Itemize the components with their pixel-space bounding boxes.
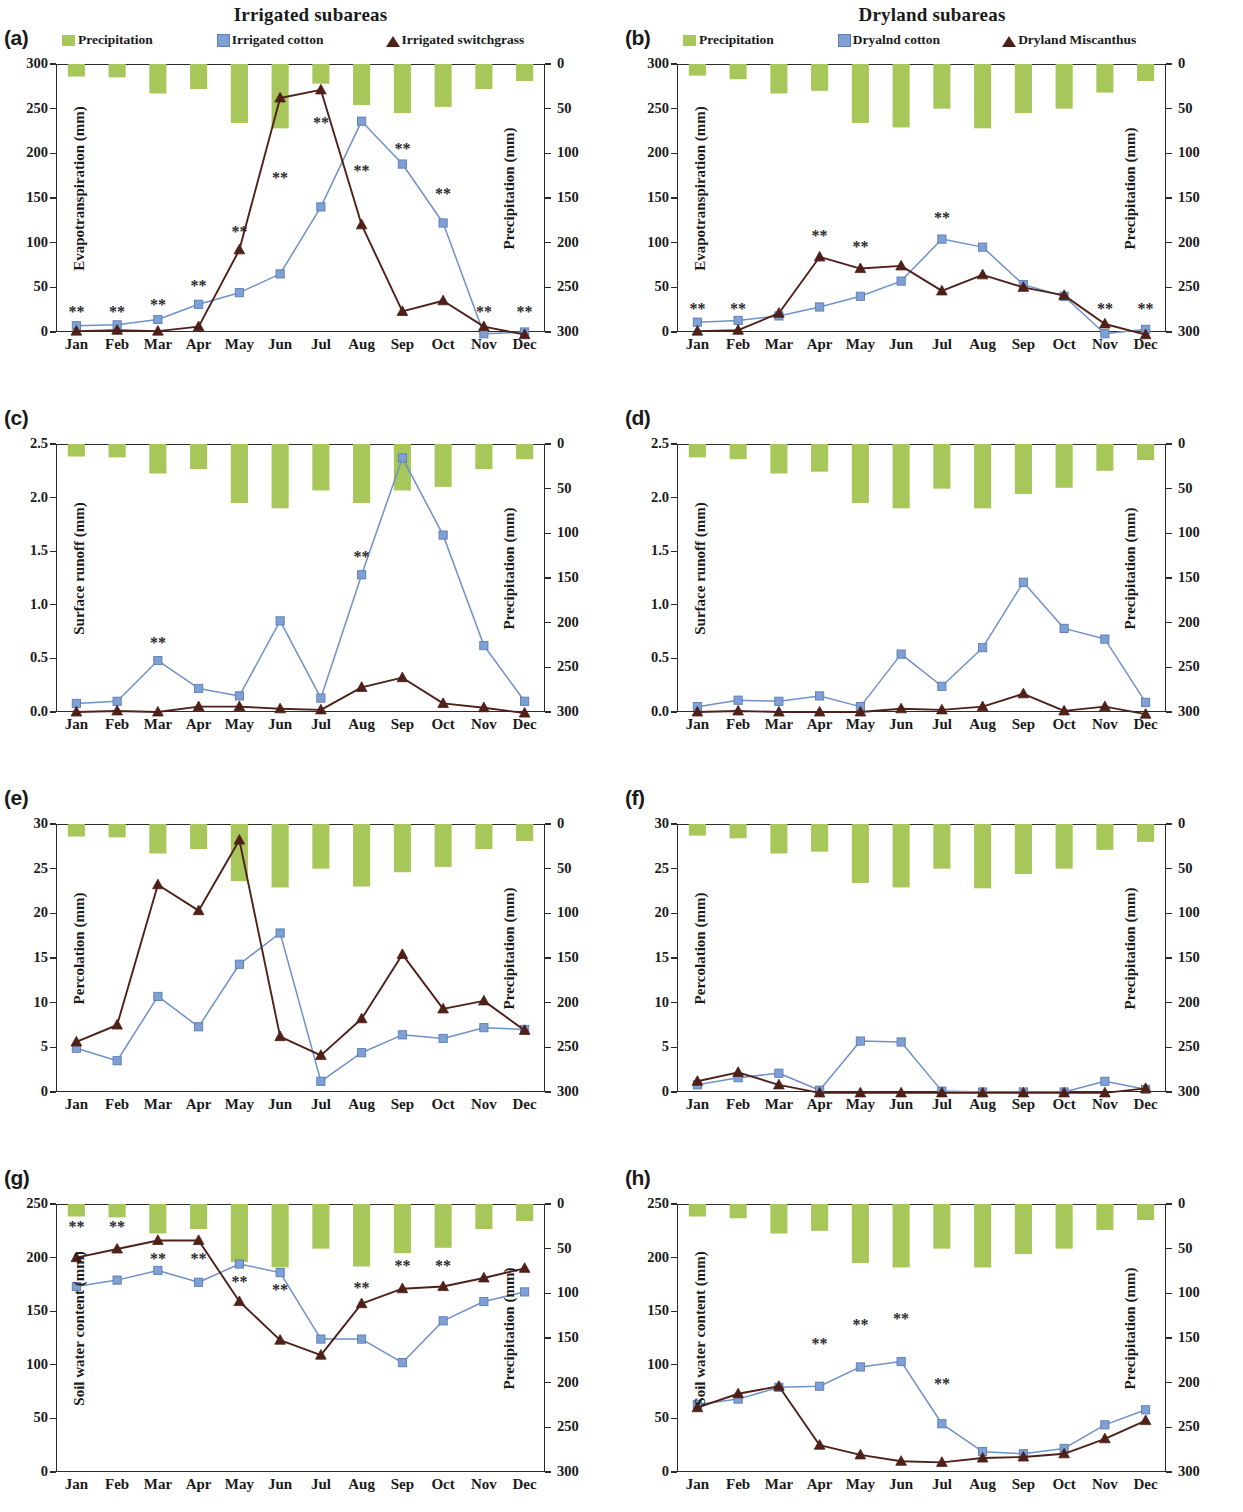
y-tick-label: 0 xyxy=(623,323,669,340)
y-tick-mark xyxy=(50,1002,56,1003)
x-tick-label: Jun xyxy=(878,1476,924,1493)
x-tick-label: Aug xyxy=(960,1476,1006,1493)
y2-tick-mark xyxy=(1166,1337,1172,1338)
y-tick-mark xyxy=(671,913,677,914)
legend-b: PrecipitationDryalnd cottonDryland Misca… xyxy=(677,30,1197,50)
x-axis-labels-f: JanFebMarAprMayJunJulAugSepOctNovDec xyxy=(677,1096,1166,1118)
y-tick-label: 50 xyxy=(2,1409,48,1426)
y2-tick-label: 100 xyxy=(1178,144,1224,161)
x-tick-label: Dec xyxy=(502,1096,548,1113)
y2-axis-title: Precipitation (mm) xyxy=(1122,454,1139,684)
x-tick-label: Nov xyxy=(1082,336,1128,353)
panel-e: (e)051015202530050100150200250300Percola… xyxy=(0,760,621,1138)
y2-tick-mark xyxy=(545,667,551,668)
series-perennial xyxy=(692,1067,1151,1097)
y-tick-mark xyxy=(671,823,677,824)
y-axis-title: Soil water content (mm) xyxy=(71,1214,88,1444)
x-tick-label: Oct xyxy=(1041,716,1087,733)
legend-item-square: Irrigated cotton xyxy=(217,32,324,48)
y-tick-mark xyxy=(50,868,56,869)
y2-tick-mark xyxy=(545,1293,551,1294)
y2-tick-label: 50 xyxy=(557,480,603,497)
y-axis-title: Evapotranspiration (mm) xyxy=(692,74,709,304)
legend-item-bar: Precipitation xyxy=(683,32,774,48)
y-tick-mark xyxy=(671,1091,677,1092)
x-axis-labels-a: JanFebMarAprMayJunJulAugSepOctNovDec xyxy=(56,336,545,358)
plot-canvas-e xyxy=(56,824,545,1092)
x-tick-label: Jan xyxy=(674,336,720,353)
y-tick-label: 100 xyxy=(2,1356,48,1373)
plot-canvas-g xyxy=(56,1204,545,1472)
y2-tick-label: 100 xyxy=(1178,904,1224,921)
x-tick-label: Sep xyxy=(379,1476,425,1493)
x-tick-label: Apr xyxy=(797,1096,843,1113)
legend-item-square: Dryalnd cotton xyxy=(838,32,940,48)
x-tick-label: Mar xyxy=(135,716,181,733)
x-tick-label: May xyxy=(216,716,262,733)
y2-tick-mark xyxy=(1166,63,1172,64)
y2-axis-title: Precipitation (mm) xyxy=(1122,834,1139,1064)
x-tick-label: Mar xyxy=(135,1476,181,1493)
y2-tick-mark xyxy=(1166,1471,1172,1472)
x-tick-label: Feb xyxy=(715,1096,761,1113)
y2-tick-label: 50 xyxy=(1178,100,1224,117)
y-tick-label: 1.0 xyxy=(2,596,48,613)
y-tick-mark xyxy=(50,1091,56,1092)
y-tick-mark xyxy=(50,1047,56,1048)
x-tick-label: Feb xyxy=(715,1476,761,1493)
x-tick-label: Mar xyxy=(756,1476,802,1493)
y-tick-mark xyxy=(50,1471,56,1472)
y-tick-label: 200 xyxy=(2,144,48,161)
y-axis-title: Soil water content (mm) xyxy=(692,1214,709,1444)
y2-tick-mark xyxy=(1166,1293,1172,1294)
x-tick-label: Jun xyxy=(878,336,924,353)
y2-tick-label: 150 xyxy=(557,189,603,206)
significance-marker: ** xyxy=(812,227,828,245)
y2-tick-mark xyxy=(545,1002,551,1003)
panel-c: (c)****0.00.51.01.52.02.5050100150200250… xyxy=(0,380,621,758)
y2-axis-title: Precipitation (mm) xyxy=(501,1214,518,1444)
plot-area-h: ********05010015020025005010015020025030… xyxy=(677,1204,1166,1472)
plot-canvas-f xyxy=(677,824,1166,1092)
significance-marker: ** xyxy=(1097,300,1113,318)
panel-g: (g)******************0501001502002500501… xyxy=(0,1140,621,1512)
y-tick-label: 100 xyxy=(2,234,48,251)
y-tick-label: 0 xyxy=(623,1463,669,1480)
x-tick-label: Jul xyxy=(919,716,965,733)
precipitation-bars xyxy=(68,64,533,128)
y2-tick-mark xyxy=(545,533,551,534)
series-cotton xyxy=(693,1357,1149,1457)
series-cotton xyxy=(693,1037,1149,1096)
panel-letter-h: (h) xyxy=(625,1166,650,1190)
x-tick-label: Feb xyxy=(94,1476,140,1493)
y-tick-label: 50 xyxy=(623,1409,669,1426)
significance-marker: ** xyxy=(354,548,370,566)
y2-tick-mark xyxy=(545,108,551,109)
significance-marker: ** xyxy=(313,114,329,132)
precipitation-bars xyxy=(68,1204,533,1267)
y-tick-mark xyxy=(671,497,677,498)
series-perennial xyxy=(71,84,530,338)
panel-letter-b: (b) xyxy=(625,26,650,50)
x-tick-label: Sep xyxy=(1000,1476,1046,1493)
x-tick-label: Oct xyxy=(420,336,466,353)
x-tick-label: Nov xyxy=(461,1476,507,1493)
x-tick-label: Sep xyxy=(1000,1096,1046,1113)
legend-label: Dryland Miscanthus xyxy=(1018,32,1136,48)
y2-tick-mark xyxy=(1166,823,1172,824)
y2-tick-mark xyxy=(1166,1002,1172,1003)
y2-tick-mark xyxy=(545,868,551,869)
precipitation-bars xyxy=(689,444,1154,508)
x-tick-label: Aug xyxy=(339,336,385,353)
y-tick-label: 50 xyxy=(2,278,48,295)
x-tick-label: Dec xyxy=(1123,1096,1169,1113)
y-tick-mark xyxy=(50,63,56,64)
y2-tick-label: 200 xyxy=(1178,1374,1224,1391)
y-axis-title: Percolation (mm) xyxy=(692,834,709,1064)
plot-canvas-c xyxy=(56,444,545,712)
y-tick-label: 1.5 xyxy=(623,542,669,559)
plot-canvas-a xyxy=(56,64,545,332)
y2-tick-mark xyxy=(545,1471,551,1472)
y2-axis-title: Precipitation (mm) xyxy=(1122,1214,1139,1444)
y2-tick-mark xyxy=(1166,488,1172,489)
